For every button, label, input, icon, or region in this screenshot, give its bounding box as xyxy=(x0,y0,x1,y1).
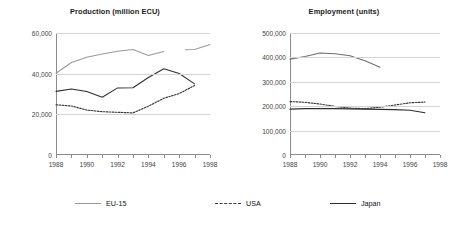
x-axis-tick-mark xyxy=(102,155,103,158)
x-axis-tick-mark xyxy=(148,155,149,158)
gridline xyxy=(56,74,210,75)
x-axis-tick-label: 1992 xyxy=(110,161,125,168)
x-axis-tick-mark xyxy=(395,155,396,158)
y-axis-tick-label: 0 xyxy=(48,152,52,159)
x-axis-tick-mark xyxy=(440,155,441,158)
x-axis-tick-mark xyxy=(210,155,211,158)
x-axis-tick-mark xyxy=(335,155,336,158)
y-axis-tick-label: 20,000 xyxy=(32,111,52,118)
x-axis-tick-mark xyxy=(87,155,88,158)
gridline xyxy=(290,57,440,58)
x-axis-tick-mark xyxy=(380,155,381,158)
gridline xyxy=(56,114,210,115)
x-axis-tick-mark xyxy=(305,155,306,158)
gridline xyxy=(290,131,440,132)
y-axis-tick-label: 40,000 xyxy=(32,70,52,77)
gridline xyxy=(290,82,440,83)
series-line-japan xyxy=(290,108,425,112)
legend-label-eu-15: EU-15 xyxy=(106,200,126,207)
chart-title-production: Production (million ECU) xyxy=(0,7,230,16)
x-axis-tick-mark xyxy=(320,155,321,158)
y-axis-tick-label: 500,000 xyxy=(262,30,286,37)
gridline xyxy=(56,33,210,34)
legend-swatch-usa xyxy=(215,203,241,204)
gridline xyxy=(290,33,440,34)
x-axis-tick-mark xyxy=(133,155,134,158)
x-axis-tick-mark xyxy=(290,155,291,158)
x-axis-tick-label: 1990 xyxy=(79,161,94,168)
x-axis-tick-mark xyxy=(71,155,72,158)
series-line-eu-15 xyxy=(56,49,164,73)
y-axis-tick-label: 60,000 xyxy=(32,30,52,37)
x-axis-tick-mark xyxy=(195,155,196,158)
x-axis-tick-mark xyxy=(118,155,119,158)
series-line-eu-15 xyxy=(290,53,380,67)
y-axis-tick-label: 0 xyxy=(282,152,286,159)
y-axis-tick-label: 300,000 xyxy=(262,78,286,85)
x-axis-tick-label: 1998 xyxy=(433,161,448,168)
legend-swatch-eu-15 xyxy=(75,203,101,204)
x-axis-tick-label: 1988 xyxy=(283,161,298,168)
chart-panel-employment: Employment (units) 0100,000200,000300,00… xyxy=(229,0,459,186)
gridline xyxy=(290,106,440,107)
x-axis-tick-label: 1994 xyxy=(373,161,388,168)
y-axis-tick-label: 200,000 xyxy=(262,103,286,110)
series-line-eu-15 xyxy=(185,44,210,49)
x-axis-tick-mark xyxy=(56,155,57,158)
x-axis-tick-mark xyxy=(164,155,165,158)
chart-title-employment: Employment (units) xyxy=(229,7,459,16)
x-axis-tick-label: 1994 xyxy=(141,161,156,168)
x-axis-tick-mark xyxy=(350,155,351,158)
y-axis-tick-label: 400,000 xyxy=(262,54,286,61)
legend-item-japan: Japan xyxy=(330,200,381,207)
legend: EU-15 USA Japan xyxy=(0,200,459,220)
x-axis-tick-label: 1988 xyxy=(49,161,64,168)
legend-item-eu-15: EU-15 xyxy=(75,200,126,207)
legend-swatch-japan xyxy=(330,203,356,204)
x-axis-tick-mark xyxy=(410,155,411,158)
x-axis-tick-mark xyxy=(179,155,180,158)
x-axis-tick-label: 1992 xyxy=(343,161,358,168)
x-axis-tick-label: 1990 xyxy=(313,161,328,168)
chart-page: Production (million ECU) 020,00040,00060… xyxy=(0,0,459,226)
legend-item-usa: USA xyxy=(215,200,261,207)
x-axis-tick-label: 1996 xyxy=(172,161,187,168)
chart-panel-production: Production (million ECU) 020,00040,00060… xyxy=(0,0,230,186)
series-layer-production xyxy=(56,33,210,155)
plot-area-production: 020,00040,00060,000198819901992199419961… xyxy=(56,33,210,155)
x-axis-tick-mark xyxy=(425,155,426,158)
x-axis-tick-label: 1998 xyxy=(203,161,218,168)
plot-area-employment: 0100,000200,000300,000400,000500,0001988… xyxy=(290,33,440,155)
x-axis-tick-mark xyxy=(365,155,366,158)
x-axis-tick-label: 1996 xyxy=(403,161,418,168)
legend-label-usa: USA xyxy=(246,200,261,207)
series-layer-employment xyxy=(290,33,440,155)
legend-label-japan: Japan xyxy=(361,200,381,207)
y-axis-tick-label: 100,000 xyxy=(262,127,286,134)
series-line-usa xyxy=(290,102,425,109)
